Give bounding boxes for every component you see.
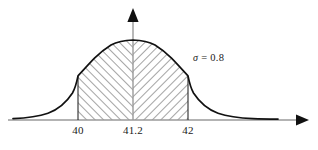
y-axis-arrow-icon bbox=[127, 8, 138, 22]
shaded-area-left-half bbox=[78, 38, 134, 121]
shaded-area-right-half bbox=[132, 38, 189, 121]
x-axis-arrow-icon bbox=[296, 115, 309, 126]
x-tick-label-41-2: 41.2 bbox=[119, 124, 147, 136]
normal-distribution-figure: 40 41.2 42 σ = 0.8 bbox=[0, 0, 318, 150]
x-tick-label-40: 40 bbox=[68, 124, 88, 136]
sigma-annotation: σ = 0.8 bbox=[193, 52, 224, 63]
distribution-plot-canvas bbox=[0, 0, 318, 150]
sigma-equals: = bbox=[198, 52, 210, 63]
sigma-value: 0.8 bbox=[210, 52, 224, 63]
x-tick-label-42: 42 bbox=[178, 124, 198, 136]
